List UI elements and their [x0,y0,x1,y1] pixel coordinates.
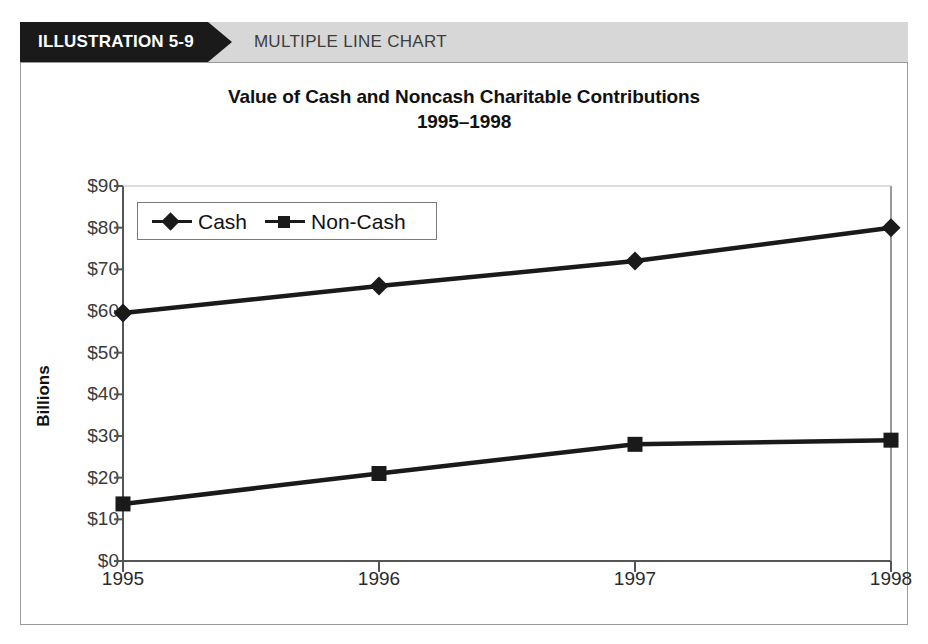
plot-area: Billions $0$10$20$30$40$50$60$70$80$90 1… [21,63,907,624]
illustration-banner: ILLUSTRATION 5-9 MULTIPLE LINE CHART [20,22,908,62]
illustration-tab-label: ILLUSTRATION 5-9 [38,32,194,52]
data-point-cash-1997 [626,252,645,271]
figure-card: Value of Cash and Noncash Charitable Con… [20,62,908,625]
data-point-non-cash-1995 [116,496,131,511]
chart-canvas [21,63,907,624]
legend-entry-cash: Cash [152,211,247,232]
diamond-marker-icon [152,213,192,229]
square-marker-icon [265,213,305,229]
data-point-non-cash-1997 [628,437,643,452]
chart-legend: Cash Non-Cash [137,202,437,240]
series-line-non-cash [123,440,891,504]
banner-subtitle: MULTIPLE LINE CHART [254,22,447,62]
data-point-cash-1998 [882,218,901,237]
data-point-non-cash-1996 [372,466,387,481]
banner-arrow-icon [208,22,232,62]
series-line-cash [123,228,891,313]
legend-label-cash: Cash [198,211,247,232]
illustration-tab: ILLUSTRATION 5-9 [20,22,208,62]
data-point-cash-1996 [370,277,389,296]
data-point-non-cash-1998 [884,433,899,448]
legend-label-non-cash: Non-Cash [311,211,406,232]
legend-entry-non-cash: Non-Cash [265,211,406,232]
data-point-cash-1995 [114,304,133,323]
